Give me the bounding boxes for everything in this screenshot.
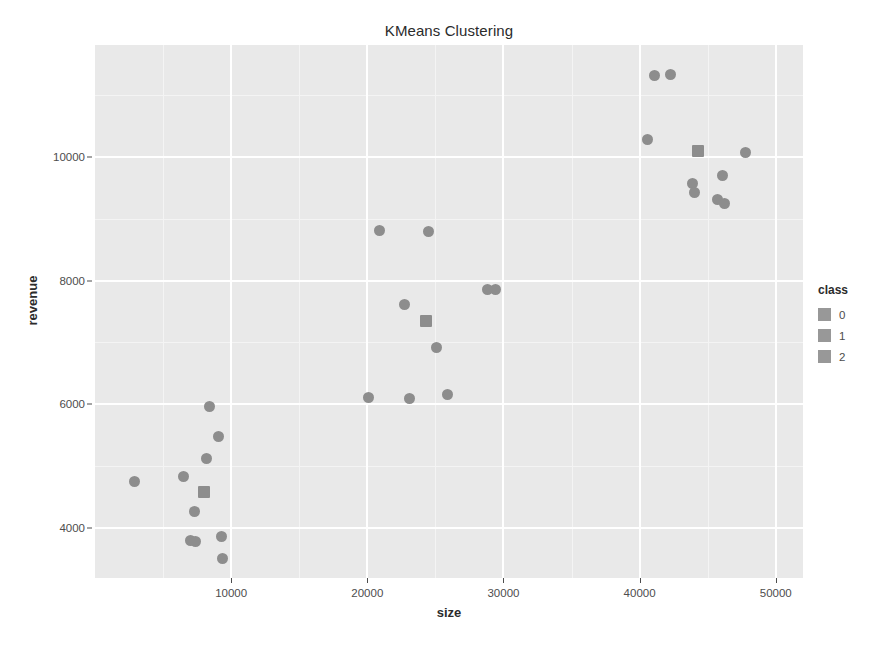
data-point: [189, 506, 200, 517]
gridline-minor-vertical: [708, 45, 709, 578]
gridline-minor-horizontal: [95, 466, 803, 467]
data-point: [404, 393, 415, 404]
legend-item-label: 0: [839, 309, 845, 321]
x-axis-title: size: [95, 605, 803, 620]
gridline-major-vertical: [230, 45, 232, 578]
y-axis-tick-mark: [87, 528, 92, 529]
data-point: [374, 225, 385, 236]
data-point: [717, 170, 728, 181]
data-point: [213, 431, 224, 442]
data-point: [689, 187, 700, 198]
data-point: [190, 536, 201, 547]
x-axis-tick-labels: 1000020000300004000050000: [95, 583, 803, 603]
gridline-major-vertical: [502, 45, 504, 578]
y-axis-tick-mark: [87, 156, 92, 157]
gridline-major-horizontal: [95, 280, 803, 282]
y-axis-tick-label: 6000: [59, 398, 85, 410]
data-point: [399, 299, 410, 310]
y-axis-tick-label: 10000: [53, 151, 85, 163]
legend: class 012: [818, 283, 888, 367]
gridline-major-vertical: [775, 45, 777, 578]
x-axis-tick-label: 10000: [215, 587, 247, 599]
legend-swatch-icon: [818, 350, 831, 363]
x-axis-tick-mark: [503, 578, 504, 583]
legend-swatch-icon: [818, 308, 831, 321]
legend-entries: 012: [818, 304, 888, 367]
page-title: KMeans Clustering: [95, 22, 803, 39]
cluster-centroid-marker: [420, 315, 432, 327]
x-axis-tick-mark: [231, 578, 232, 583]
legend-title: class: [818, 283, 888, 297]
cluster-centroid-marker: [198, 486, 210, 498]
data-point: [201, 453, 212, 464]
x-axis-tick-label: 30000: [487, 587, 519, 599]
cluster-centroid-marker: [692, 145, 704, 157]
data-point: [216, 531, 227, 542]
plot-panel: [95, 45, 803, 578]
y-axis-title: revenue: [25, 251, 40, 351]
x-axis-tick-label: 40000: [624, 587, 656, 599]
gridline-major-vertical: [639, 45, 641, 578]
x-axis-tick-mark: [367, 578, 368, 583]
gridline-minor-vertical: [572, 45, 573, 578]
legend-item-0[interactable]: 0: [818, 304, 888, 325]
data-point: [204, 401, 215, 412]
data-point: [217, 553, 228, 564]
x-axis-tick-label: 20000: [351, 587, 383, 599]
gridline-major-horizontal: [95, 403, 803, 405]
legend-item-label: 2: [839, 351, 845, 363]
x-axis-tick-mark: [640, 578, 641, 583]
legend-item-label: 1: [839, 330, 845, 342]
data-point: [363, 392, 374, 403]
gridline-minor-vertical: [299, 45, 300, 578]
x-axis-tick-mark: [776, 578, 777, 583]
legend-item-2[interactable]: 2: [818, 346, 888, 367]
gridline-major-vertical: [366, 45, 368, 578]
gridline-minor-horizontal: [95, 95, 803, 96]
gridline-major-horizontal: [95, 527, 803, 529]
y-axis-tick-label: 8000: [59, 275, 85, 287]
y-axis-tick-mark: [87, 404, 92, 405]
data-point: [649, 70, 660, 81]
data-point: [442, 389, 453, 400]
data-point: [178, 471, 189, 482]
data-point: [719, 198, 730, 209]
x-axis-tick-label: 50000: [760, 587, 792, 599]
legend-item-1[interactable]: 1: [818, 325, 888, 346]
data-point: [423, 226, 434, 237]
y-axis-tick-label: 4000: [59, 522, 85, 534]
gridline-minor-horizontal: [95, 219, 803, 220]
chart-root: KMeans Clustering 40006000800010000 1000…: [0, 0, 892, 650]
data-point: [129, 476, 140, 487]
data-point: [642, 134, 653, 145]
data-point: [490, 284, 501, 295]
y-axis-tick-mark: [87, 280, 92, 281]
data-point: [431, 342, 442, 353]
gridline-minor-vertical: [163, 45, 164, 578]
data-point: [665, 69, 676, 80]
gridline-minor-horizontal: [95, 342, 803, 343]
legend-swatch-icon: [818, 329, 831, 342]
gridline-minor-vertical: [435, 45, 436, 578]
